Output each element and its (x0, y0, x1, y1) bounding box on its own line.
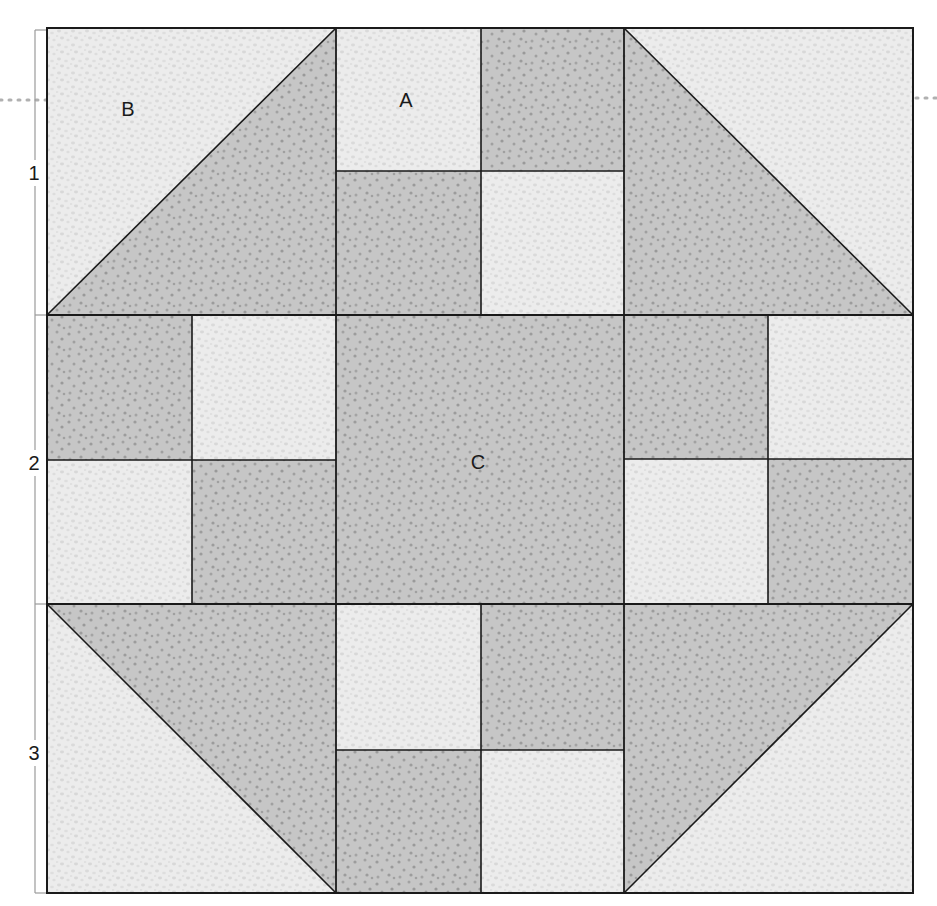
row-label-3: 3 (28, 742, 39, 764)
unit-hst-bottom-right (624, 604, 913, 893)
unit-hst-bottom-left (47, 604, 336, 893)
unit-b-hst-top-left (47, 28, 336, 315)
piece-label-c: C (471, 451, 485, 473)
piece-label-a: A (399, 89, 413, 111)
row-1 (47, 28, 913, 315)
unit-hst-top-right (624, 28, 913, 315)
row-label-2: 2 (28, 452, 39, 474)
quilt-block-diagram: 1 2 3 (0, 0, 937, 906)
unit-a-four-patch-top (336, 28, 624, 315)
unit-four-patch-middle-left (47, 315, 336, 604)
piece-label-b: B (121, 98, 134, 120)
unit-four-patch-middle-right (624, 315, 913, 604)
row-3 (47, 604, 913, 893)
row-label-1: 1 (28, 162, 39, 184)
unit-four-patch-bottom (336, 604, 624, 893)
